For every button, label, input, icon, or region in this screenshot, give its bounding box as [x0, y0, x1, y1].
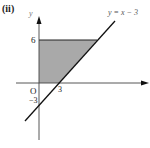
- tick-label-x-3: 3: [58, 86, 62, 94]
- tick-label-y-6: 6: [31, 36, 36, 45]
- line-equation-label: y = x − 3: [108, 9, 138, 17]
- graph-canvas: [0, 0, 150, 148]
- tick-label-y-neg3: −3: [29, 97, 38, 105]
- line-y-equals-x-minus-3: [25, 21, 115, 121]
- y-axis-arrow-icon: [37, 16, 42, 24]
- shaded-region: [39, 40, 97, 83]
- part-label: (ii): [2, 4, 14, 14]
- origin-label: O: [30, 87, 37, 96]
- x-axis-arrow-icon: [141, 81, 149, 86]
- y-axis-label: y: [29, 10, 33, 18]
